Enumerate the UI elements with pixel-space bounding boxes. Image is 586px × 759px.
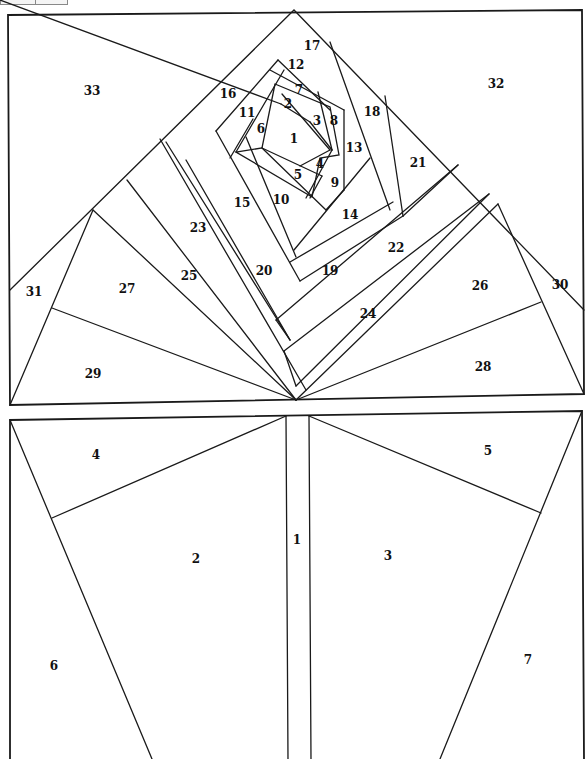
rose-block-region-label: 30	[552, 278, 569, 292]
rose-block-region-label: 27	[119, 282, 136, 296]
rose-block-region-label: 24	[360, 307, 377, 321]
rose-block-region-label: 18	[364, 105, 381, 119]
rose-block-region-label: 21	[410, 156, 427, 170]
rose-block-region-label: 23	[190, 221, 207, 235]
stem-block-region-label: 6	[50, 659, 58, 673]
rose-block-region-label: 16	[220, 87, 237, 101]
rose-block-region-label: 22	[388, 241, 405, 255]
rose-block-region-label: 26	[472, 279, 489, 293]
rose-block-region-label: 12	[288, 58, 305, 72]
rose-block-region-label: 15	[234, 196, 251, 210]
rose-block-region-label: 25	[181, 269, 198, 283]
rose-block-region-label: 2	[284, 97, 292, 111]
rose-block-region-label: 8	[330, 114, 338, 128]
rose-block-region-label: 11	[239, 106, 256, 120]
rose-block-region-label: 9	[331, 176, 339, 190]
rose-block-region-label: 17	[304, 39, 321, 53]
rose-block-region-label: 33	[84, 84, 101, 98]
rose-block-region-label: 10	[273, 193, 290, 207]
rose-block-region-label: 4	[316, 157, 324, 171]
stem-block-frame	[10, 411, 584, 759]
stem-block-region-label: 3	[384, 549, 392, 563]
rose-block-region-label: 28	[475, 360, 492, 374]
rose-block-region-label: 32	[488, 77, 505, 91]
rose-block-region-label: 31	[26, 285, 43, 299]
rose-block-region-label: 29	[85, 367, 102, 381]
rose-block-region-label: 6	[257, 122, 265, 136]
rose-block-region-label: 13	[346, 141, 363, 155]
stem-block-region-label: 1	[293, 533, 301, 547]
rose-block-region-label: 14	[342, 208, 359, 222]
rose-block-region-label: 7	[295, 83, 303, 97]
rose-block-region-label: 1	[290, 132, 298, 146]
stem-block-region-label: 7	[524, 653, 532, 667]
stem-block-region-label: 4	[92, 448, 100, 462]
rose-block-region-label: 5	[294, 168, 302, 182]
stem-block-region-label: 2	[192, 552, 200, 566]
stem-block-region-label: 5	[484, 444, 492, 458]
stem-block-lines	[10, 411, 584, 759]
rose-block-region-label: 3	[313, 114, 321, 128]
rose-block-region-label: 19	[322, 264, 339, 278]
rose-block-region-label: 20	[256, 264, 273, 278]
